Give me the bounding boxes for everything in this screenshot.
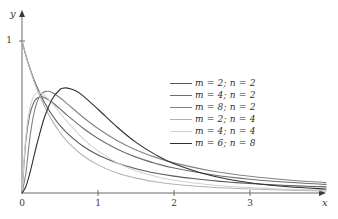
legend-label: m = 4; n = 4 xyxy=(195,126,256,136)
legend-item[interactable]: m = 2; n = 4 xyxy=(170,113,256,125)
legend-line-swatch xyxy=(170,131,192,132)
legend-item[interactable]: m = 2; n = 2 xyxy=(170,77,256,89)
legend-item[interactable]: m = 4; n = 2 xyxy=(170,89,256,101)
legend-item[interactable]: m = 6; n = 8 xyxy=(170,137,256,149)
legend-label: m = 8; n = 2 xyxy=(195,102,256,112)
legend-line-swatch xyxy=(170,95,192,96)
legend-line-swatch xyxy=(170,83,192,84)
x-tick-label: 3 xyxy=(243,198,257,208)
legend-label: m = 4; n = 2 xyxy=(195,90,256,100)
x-axis-label: x xyxy=(322,197,328,208)
x-tick-label: 2 xyxy=(167,198,181,208)
chart-legend: m = 2; n = 2m = 4; n = 2m = 8; n = 2m = … xyxy=(170,77,256,149)
legend-line-swatch xyxy=(170,107,192,108)
legend-label: m = 2; n = 4 xyxy=(195,114,256,124)
legend-item[interactable]: m = 4; n = 4 xyxy=(170,125,256,137)
legend-line-swatch xyxy=(170,119,192,120)
y-tick-label: 1 xyxy=(2,35,16,45)
legend-line-swatch xyxy=(170,143,192,144)
chart-figure: y x 01231 m = 2; n = 2m = 4; n = 2m = 8;… xyxy=(0,0,338,219)
legend-item[interactable]: m = 8; n = 2 xyxy=(170,101,256,113)
y-axis-label: y xyxy=(10,8,16,19)
plot-area xyxy=(0,0,338,219)
x-tick-label: 0 xyxy=(15,198,29,208)
x-tick-label: 1 xyxy=(91,198,105,208)
legend-label: m = 6; n = 8 xyxy=(195,138,256,148)
legend-label: m = 2; n = 2 xyxy=(195,78,256,88)
